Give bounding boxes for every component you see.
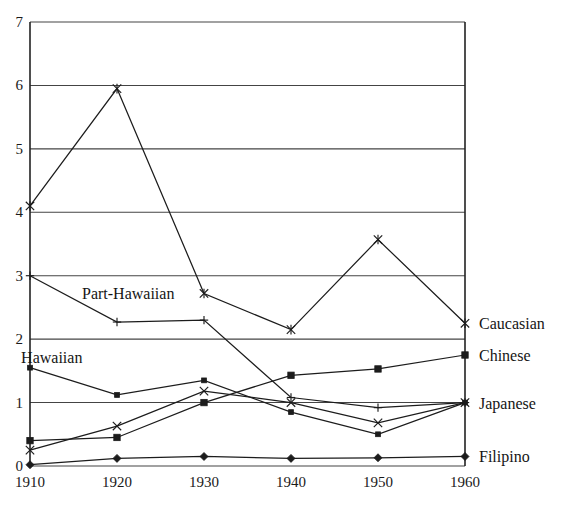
legend-label-caucasian: Caucasian xyxy=(479,315,545,332)
inline-label-part-hawaiian: Part-Hawaiian xyxy=(82,285,174,302)
marker-chinese-1930 xyxy=(201,399,207,405)
y-tick-0: 0 xyxy=(16,458,24,474)
chart-container: 01234567 191019201930194019501960 Caucas… xyxy=(0,0,568,505)
series-line-filipino xyxy=(30,456,465,464)
y-tick-2: 2 xyxy=(16,331,24,347)
marker-chinese-1950 xyxy=(375,366,381,372)
x-tick-1940: 1940 xyxy=(276,474,306,490)
series-line-chinese xyxy=(30,355,465,441)
marker-hawaiian-1940 xyxy=(289,410,294,415)
legend-label-chinese: Chinese xyxy=(479,347,531,364)
marker-hawaiian-1910 xyxy=(28,365,33,370)
marker-part-hawaiian-1950 xyxy=(374,403,382,411)
y-axis-tick-labels: 01234567 xyxy=(16,14,24,474)
marker-filipino-1920 xyxy=(113,454,121,462)
x-tick-1920: 1920 xyxy=(102,474,132,490)
marker-caucasian-1920 xyxy=(113,84,121,94)
marker-part-hawaiian-1910 xyxy=(26,272,34,280)
marker-japanese-1920 xyxy=(113,422,121,430)
marker-hawaiian-1930 xyxy=(202,378,207,383)
axes xyxy=(30,22,465,466)
y-tick-6: 6 xyxy=(16,77,24,93)
x-axis-tick-labels: 191019201930194019501960 xyxy=(15,474,480,490)
marker-hawaiian-1920 xyxy=(115,393,120,398)
series-line-japanese xyxy=(30,391,465,450)
marker-caucasian-1950 xyxy=(374,235,382,245)
series-line-hawaiian xyxy=(30,368,465,435)
y-tick-3: 3 xyxy=(16,268,24,284)
marker-chinese-1960 xyxy=(462,352,468,358)
x-tick-1910: 1910 xyxy=(15,474,45,490)
gridlines xyxy=(30,22,465,466)
marker-filipino-1960 xyxy=(461,452,469,460)
marker-hawaiian-1950 xyxy=(376,432,381,437)
marker-chinese-1920 xyxy=(114,434,120,440)
marker-filipino-1940 xyxy=(287,454,295,462)
data-series xyxy=(30,89,465,465)
y-tick-4: 4 xyxy=(16,204,24,220)
legend-label-japanese: Japanese xyxy=(479,395,536,413)
marker-japanese-1950 xyxy=(374,419,382,427)
marker-caucasian-1940 xyxy=(287,325,295,335)
marker-caucasian-1930 xyxy=(200,289,208,299)
series-legend-labels: CaucasianChineseJapaneseFilipino xyxy=(479,315,545,466)
inline-series-labels: Part-HawaiianHawaiian xyxy=(21,285,174,365)
x-tick-1960: 1960 xyxy=(450,474,480,490)
marker-caucasian-1960 xyxy=(461,318,469,328)
data-markers xyxy=(26,84,469,469)
marker-chinese-1910 xyxy=(27,437,33,443)
marker-filipino-1950 xyxy=(374,454,382,462)
marker-chinese-1940 xyxy=(288,372,294,378)
line-chart: 01234567 191019201930194019501960 Caucas… xyxy=(0,0,568,505)
x-tick-1950: 1950 xyxy=(363,474,393,490)
marker-caucasian-1910 xyxy=(26,201,34,211)
marker-filipino-1910 xyxy=(26,461,34,469)
inline-label-hawaiian: Hawaiian xyxy=(21,349,82,366)
marker-part-hawaiian-1920 xyxy=(113,318,121,326)
y-tick-5: 5 xyxy=(16,141,24,157)
y-tick-7: 7 xyxy=(16,14,24,30)
y-tick-1: 1 xyxy=(16,395,24,411)
x-tick-1930: 1930 xyxy=(189,474,219,490)
marker-filipino-1930 xyxy=(200,452,208,460)
legend-label-filipino: Filipino xyxy=(479,448,530,466)
